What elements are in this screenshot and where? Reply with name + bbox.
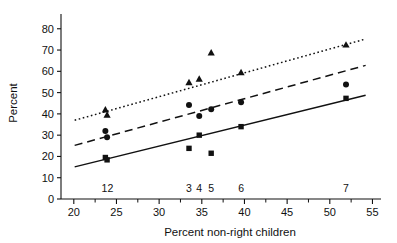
x-tick-label: 30 xyxy=(153,206,165,218)
data-point-circle xyxy=(343,82,349,88)
data-point-circle xyxy=(186,102,192,108)
x-axis-title: Percent non-right children xyxy=(164,226,296,238)
sample-index-label: 3 xyxy=(186,182,192,194)
data-point-circle xyxy=(104,134,110,140)
y-tick-label: 50 xyxy=(42,87,54,99)
x-tick-label: 20 xyxy=(68,206,80,218)
y-tick-label: 60 xyxy=(42,65,54,77)
data-point-circle xyxy=(208,106,214,112)
scatter-plot-figure: 01020304050607080 2025303540455055 12345… xyxy=(0,0,397,243)
y-tick-label: 70 xyxy=(42,44,54,56)
data-point-square xyxy=(104,157,109,162)
chart-canvas: 01020304050607080 2025303540455055 12345… xyxy=(0,0,397,243)
data-point-circle xyxy=(102,128,108,134)
y-tick-label: 20 xyxy=(42,150,54,162)
x-tick-label: 35 xyxy=(196,206,208,218)
data-point-square xyxy=(238,124,243,129)
y-axis-title: Percent xyxy=(7,82,19,122)
sample-index-label: 6 xyxy=(238,182,244,194)
x-tick-label: 25 xyxy=(110,206,122,218)
data-point-square xyxy=(208,151,213,156)
data-point-circle xyxy=(238,99,244,105)
sample-index-label: 7 xyxy=(343,182,349,194)
x-tick-label: 55 xyxy=(366,206,378,218)
data-point-square xyxy=(343,96,348,101)
sample-index-label: 4 xyxy=(196,182,202,194)
sample-index-label: 2 xyxy=(108,182,114,194)
x-tick-label: 50 xyxy=(324,206,336,218)
x-tick-label: 40 xyxy=(238,206,250,218)
data-point-square xyxy=(186,146,191,151)
x-tick-label: 45 xyxy=(281,206,293,218)
y-tick-label: 0 xyxy=(48,193,54,205)
y-tick-label: 40 xyxy=(42,108,54,120)
y-tick-label: 10 xyxy=(42,172,54,184)
data-point-circle xyxy=(196,113,202,119)
sample-index-label: 5 xyxy=(208,182,214,194)
y-tick-label: 30 xyxy=(42,129,54,141)
data-point-square xyxy=(197,132,202,137)
y-tick-label: 80 xyxy=(42,23,54,35)
